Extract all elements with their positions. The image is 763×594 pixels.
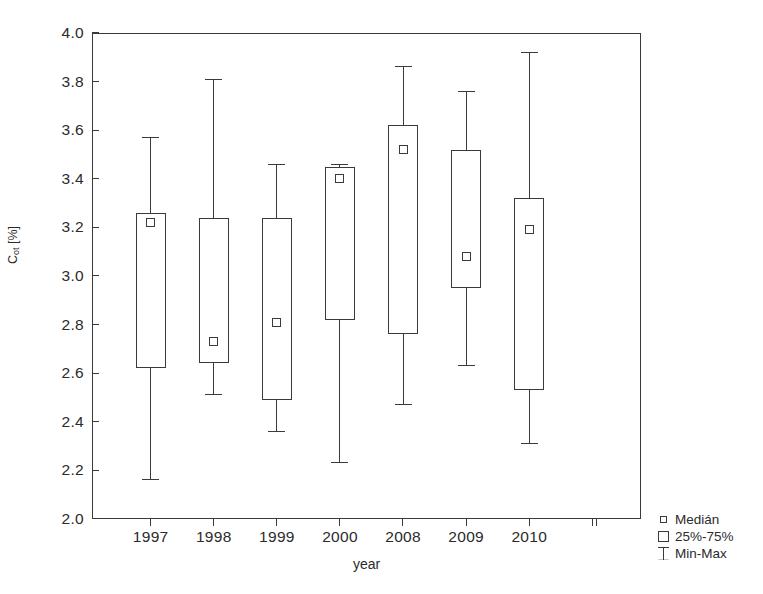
whisker-cap-max bbox=[142, 137, 159, 138]
y-tick-label: 2.0 bbox=[40, 510, 84, 528]
whisker-lower bbox=[466, 288, 467, 366]
y-tick-mark bbox=[92, 421, 99, 422]
minmax-marker-icon bbox=[654, 547, 672, 560]
y-axis-title-sub: ot bbox=[11, 248, 21, 256]
quartile-box bbox=[451, 150, 481, 289]
whisker-cap-min bbox=[395, 404, 412, 405]
y-tick-mark bbox=[92, 470, 99, 471]
whisker-lower bbox=[403, 334, 404, 404]
whisker-cap-max bbox=[458, 91, 475, 92]
whisker-cap-max bbox=[331, 164, 348, 165]
y-tick-mark bbox=[92, 81, 99, 82]
x-tick-label: 2000 bbox=[305, 528, 375, 546]
x-tick-mark bbox=[402, 519, 403, 526]
y-tick-mark bbox=[92, 324, 99, 325]
quartile-box bbox=[262, 218, 292, 400]
y-tick-label: 3.4 bbox=[40, 170, 84, 188]
median-marker bbox=[335, 174, 344, 183]
median-marker bbox=[462, 252, 471, 261]
whisker-cap-min bbox=[205, 394, 222, 395]
legend-label-quartiles: 25%-75% bbox=[672, 528, 734, 545]
x-tick-mark bbox=[466, 519, 467, 526]
whisker-cap-max bbox=[268, 164, 285, 165]
x-tick-label: 1999 bbox=[242, 528, 312, 546]
whisker-upper bbox=[276, 164, 277, 217]
x-axis-title: year bbox=[92, 556, 641, 572]
median-marker bbox=[272, 318, 281, 327]
x-tick-mark bbox=[529, 519, 530, 526]
y-axis-title: Cot [%] bbox=[6, 226, 20, 264]
whisker-cap-max bbox=[395, 66, 412, 67]
whisker-lower bbox=[276, 400, 277, 432]
whisker-cap-max bbox=[521, 52, 538, 53]
whisker-upper bbox=[529, 52, 530, 198]
y-axis-title-base: C bbox=[6, 255, 20, 264]
y-tick-mark bbox=[92, 227, 99, 228]
y-tick-label: 4.0 bbox=[40, 24, 84, 42]
x-tick-label: 2008 bbox=[368, 528, 438, 546]
median-marker bbox=[146, 218, 155, 227]
whisker-lower bbox=[529, 390, 530, 443]
whisker-upper bbox=[403, 67, 404, 125]
whisker-cap-min bbox=[268, 431, 285, 432]
y-tick-label: 2.4 bbox=[40, 413, 84, 431]
x-tick-label: 2010 bbox=[494, 528, 564, 546]
quartile-box bbox=[325, 167, 355, 320]
y-tick-label: 3.6 bbox=[40, 121, 84, 139]
whisker-lower bbox=[150, 368, 151, 480]
whisker-upper bbox=[213, 79, 214, 218]
legend: Medián 25%-75% Min-Max bbox=[654, 511, 734, 562]
legend-item-quartiles: 25%-75% bbox=[654, 528, 734, 545]
x-tick-label: 2009 bbox=[431, 528, 501, 546]
whisker-cap-max bbox=[205, 79, 222, 80]
y-tick-mark bbox=[92, 178, 99, 179]
whisker-cap-min bbox=[458, 365, 475, 366]
legend-item-minmax: Min-Max bbox=[654, 545, 734, 562]
median-marker bbox=[399, 145, 408, 154]
whisker-lower bbox=[339, 320, 340, 463]
y-tick-label: 3.0 bbox=[40, 267, 84, 285]
whisker-cap-min bbox=[521, 443, 538, 444]
box-marker-icon bbox=[654, 531, 672, 542]
plot-area bbox=[92, 33, 641, 519]
y-tick-mark bbox=[92, 518, 99, 519]
median-marker-icon bbox=[654, 516, 672, 523]
y-tick-mark bbox=[92, 275, 99, 276]
y-tick-mark bbox=[92, 373, 99, 374]
whisker-upper bbox=[150, 137, 151, 212]
y-tick-label: 3.2 bbox=[40, 218, 84, 236]
x-tick-label: 1998 bbox=[179, 528, 249, 546]
quartile-box bbox=[388, 125, 418, 334]
x-tick-mark bbox=[592, 519, 593, 526]
y-tick-label: 3.8 bbox=[40, 73, 84, 91]
whisker-cap-min bbox=[142, 479, 159, 480]
x-tick-label: 1997 bbox=[116, 528, 186, 546]
y-tick-mark bbox=[92, 130, 99, 131]
x-tick-mark bbox=[276, 519, 277, 526]
x-tick-mark bbox=[150, 519, 151, 526]
legend-item-median: Medián bbox=[654, 511, 734, 528]
y-tick-label: 2.8 bbox=[40, 316, 84, 334]
median-marker bbox=[525, 225, 534, 234]
quartile-box bbox=[136, 213, 166, 369]
y-tick-label: 2.6 bbox=[40, 364, 84, 382]
x-tick-mark bbox=[213, 519, 214, 526]
x-tick-mark bbox=[339, 519, 340, 526]
whisker-upper bbox=[466, 91, 467, 149]
whisker-lower bbox=[213, 363, 214, 395]
median-marker bbox=[209, 337, 218, 346]
x-tick-mark bbox=[596, 519, 597, 526]
y-tick-mark bbox=[92, 32, 99, 33]
y-axis-title-unit: [%] bbox=[6, 226, 20, 248]
y-tick-label: 2.2 bbox=[40, 461, 84, 479]
boxplot-figure: 4.03.83.63.43.23.02.82.62.42.22.0 Cot [%… bbox=[0, 0, 763, 594]
whisker-cap-min bbox=[331, 462, 348, 463]
legend-label-median: Medián bbox=[672, 511, 719, 528]
legend-label-minmax: Min-Max bbox=[672, 545, 727, 562]
